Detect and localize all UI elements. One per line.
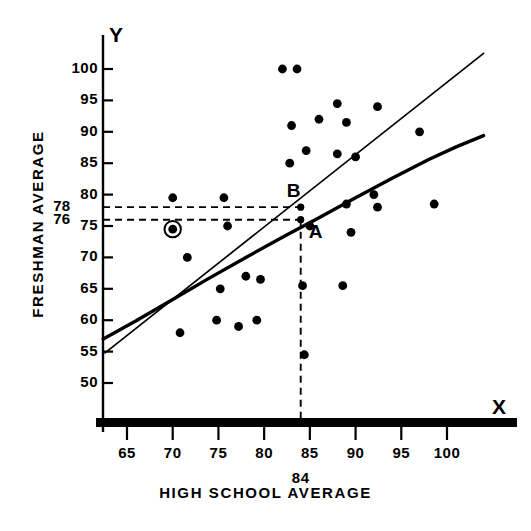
data-point (241, 272, 250, 281)
data-point (176, 328, 185, 337)
data-point (415, 127, 424, 136)
data-point (234, 322, 243, 331)
data-point (302, 146, 311, 155)
data-point (183, 253, 192, 262)
x-axis-title-wrapper: HIGH SCHOOL AVERAGE (0, 484, 531, 502)
chart-figure: 5055606570758085909510065707580859095100… (0, 0, 531, 531)
data-point (333, 149, 342, 158)
x-special-tick-label-84: 84 (271, 470, 331, 485)
regression-curves (103, 53, 483, 353)
point-label-B: B (287, 181, 301, 200)
data-point (373, 203, 382, 212)
y-axis-title: FRESHMAN AVERAGE (29, 130, 46, 317)
annotated-intersection-points (297, 204, 304, 224)
data-point (298, 281, 307, 290)
data-point (342, 118, 351, 127)
data-point (278, 65, 287, 74)
data-point (223, 222, 232, 231)
y-tick-label-100: 100 (52, 60, 98, 75)
y-tick-label-70: 70 (52, 248, 98, 263)
y-tick-label-85: 85 (52, 154, 98, 169)
data-point (216, 284, 225, 293)
data-point (212, 316, 221, 325)
data-point (168, 193, 177, 202)
data-point (333, 99, 342, 108)
point-label-A: A (309, 222, 323, 241)
reference-dashed-lines (103, 207, 301, 418)
data-point (430, 200, 439, 209)
axes (96, 35, 517, 432)
data-point (256, 275, 265, 284)
data-point (285, 159, 294, 168)
data-point-highlighted (168, 225, 177, 234)
intersection-point-B (297, 204, 304, 211)
data-point (351, 153, 360, 162)
x-axis-bar (96, 418, 517, 427)
data-point (338, 281, 347, 290)
linear-regression-line (105, 53, 484, 353)
nonlinear-regression-curve (103, 136, 483, 339)
x-tick-label-100: 100 (417, 445, 477, 460)
data-point (287, 121, 296, 130)
data-point (373, 102, 382, 111)
data-point (315, 115, 324, 124)
y-tick-label-95: 95 (52, 91, 98, 106)
y-tick-label-65: 65 (52, 280, 98, 295)
y-tick-label-90: 90 (52, 123, 98, 138)
scatter-points (165, 65, 439, 360)
data-point (252, 316, 261, 325)
x-axis-letter: X (492, 396, 506, 417)
x-tick-marks (127, 427, 447, 440)
y-axis-letter: Y (109, 24, 123, 45)
data-point (369, 190, 378, 199)
data-point (293, 65, 302, 74)
data-point (347, 228, 356, 237)
y-tick-label-50: 50 (52, 374, 98, 389)
x-axis-title: HIGH SCHOOL AVERAGE (159, 484, 372, 501)
y-tick-label-55: 55 (52, 343, 98, 358)
data-point (300, 350, 309, 359)
intersection-point-A (297, 216, 304, 223)
data-point (220, 193, 229, 202)
y-axis-title-wrapper: FRESHMAN AVERAGE (29, 104, 47, 344)
data-point (342, 200, 351, 209)
y-tick-label-60: 60 (52, 311, 98, 326)
